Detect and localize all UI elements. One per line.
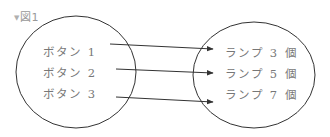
left-item-2: ボタン 2 — [43, 64, 97, 80]
right-item-2: ランプ 5 個 — [225, 65, 298, 81]
right-item-1: ランプ 3 個 — [225, 44, 298, 60]
right-item-3: ランプ 7 個 — [225, 86, 298, 102]
left-item-1: ボタン 1 — [43, 43, 97, 59]
left-item-3: ボタン 3 — [43, 85, 97, 101]
arrow-2 — [116, 69, 213, 73]
arrow-1 — [110, 44, 213, 49]
